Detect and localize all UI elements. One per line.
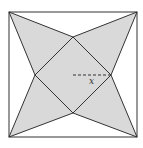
geometry-diagram: x xyxy=(0,0,143,148)
label-x: x xyxy=(89,76,94,86)
